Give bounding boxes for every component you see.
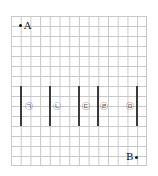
point-b-dot <box>135 156 138 159</box>
point-b-label: B <box>126 152 133 162</box>
wall-1 <box>20 86 22 126</box>
marker-nieun: ㉡ <box>53 103 61 111</box>
point-a-dot <box>19 24 22 27</box>
marker-digeut: ㉢ <box>82 103 90 111</box>
wall-4 <box>97 86 99 126</box>
wall-2 <box>49 86 51 126</box>
marker-giyeok: ㉠ <box>25 103 33 111</box>
marker-rieul: ㉣ <box>100 103 108 111</box>
marker-mieum: ㉤ <box>126 103 134 111</box>
point-a-label: A <box>24 21 31 31</box>
wall-3 <box>78 86 80 126</box>
wall-5 <box>136 86 138 126</box>
